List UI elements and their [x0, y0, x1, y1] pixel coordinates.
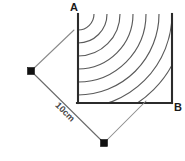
- geometry-diagram: A B 10cm: [0, 0, 185, 161]
- dimension-label: 10cm: [53, 100, 76, 123]
- arc-6: [0, 0, 159, 95]
- extension-line-top: [31, 30, 74, 71]
- diagram-canvas: A B 10cm: [0, 0, 185, 161]
- vertex-label-a: A: [70, 1, 78, 13]
- marker-icon-bottom: [101, 140, 108, 147]
- vertex-label-b: B: [174, 101, 182, 113]
- extension-line-bottom: [104, 101, 146, 143]
- marker-icon-left: [28, 68, 35, 75]
